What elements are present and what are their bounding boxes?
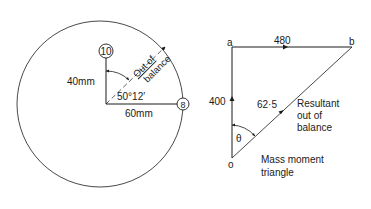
side-ob-label: 62·5 [257,99,277,110]
figure: 10 8 40mm 60mm 50°12′ Out of balance a [0,0,371,209]
radius-top-label: 40mm [67,76,95,87]
caption-line1: Mass moment [261,154,324,165]
resultant-line1: Resultant [297,98,339,109]
radius-right-label: 60mm [125,108,153,119]
resultant-line2: out of [297,110,322,121]
resultant-line3: balance [297,122,332,133]
arrow-ob-icon [279,110,285,114]
mass-moment-triangle: a b o 480 400 62·5 θ Resultant out of ba… [209,35,355,178]
theta-label: θ [236,133,242,144]
mass-right-label: 8 [180,100,185,110]
vertex-a-label: a [227,37,233,48]
angle-arc [106,71,129,80]
rotor-disc-diagram: 10 8 40mm 60mm 50°12′ Out of balance [17,21,189,187]
side-ab-label: 480 [274,35,291,46]
side-oa-label: 400 [209,96,226,107]
arrow-oa-icon [230,96,235,101]
vertex-b-label: b [349,36,355,47]
vertex-o-label: o [228,159,234,170]
angle-label: 50°12′ [117,91,145,102]
caption-line2: triangle [261,167,294,178]
mass-top-label: 10 [100,46,112,57]
